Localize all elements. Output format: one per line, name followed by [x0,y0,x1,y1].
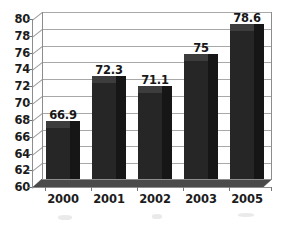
y-axis-tick-label: 80 [2,14,30,25]
y-axis-tick-label: 68 [2,115,30,126]
y-axis-tick-label: 76 [2,48,30,59]
x-axis-line-back [42,179,272,180]
bar-chart: 80 78 76 74 72 70 68 66 64 62 60 [0,0,282,227]
x-axis-category-label-2002: 2002 [132,192,178,206]
x-axis-tick-mark [183,187,184,191]
scan-artifact [58,215,72,220]
y-axis-line-back [42,12,43,179]
x-axis-tick-mark [45,187,46,191]
y-axis-tick-label: 70 [2,98,30,109]
bar-side-face [208,54,218,179]
bar-value-label-2003: 75 [178,41,224,55]
x-axis-tick-mark [229,187,230,191]
y-axis-tick-label: 72 [2,81,30,92]
scan-artifact [238,213,254,217]
bar-2002[interactable] [138,86,172,179]
y-axis-tick-label: 74 [2,64,30,75]
bar-2005[interactable] [230,24,264,179]
bar-side-face [254,24,264,179]
y-axis-tick-label: 66 [2,132,30,143]
plot-right-border [271,12,272,179]
x-axis-tick-mark [137,187,138,191]
y-axis-line-front [32,20,33,187]
x-axis-category-label-2001: 2001 [86,192,132,206]
x-axis-category-label-2003: 2003 [178,192,224,206]
x-axis-tick-mark [91,187,92,191]
y-axis-tick-label: 62 [2,165,30,176]
bar-2001[interactable] [92,76,126,179]
x-axis-line-front [32,187,272,188]
y-axis: 80 78 76 74 72 70 68 66 64 62 60 [0,0,30,227]
bar-value-label-2000: 66.9 [40,108,86,122]
bar-value-label-2005: 78.6 [224,11,270,25]
x-axis-category-label-2005: 2005 [224,192,270,206]
bar-side-face [162,86,172,179]
x-axis-category-label-2000: 2000 [40,192,86,206]
bar-value-label-2002: 71.1 [132,73,178,87]
x-axis-tick-mark [271,187,272,191]
bar-2003[interactable] [184,54,218,179]
bar-value-label-2001: 72.3 [86,63,132,77]
bar-2000[interactable] [46,121,80,179]
y-axis-tick-label: 78 [2,31,30,42]
y-axis-tick-label: 60 [2,182,30,193]
bar-side-face [116,76,126,179]
y-axis-tick-label: 64 [2,149,30,160]
bar-side-face [70,121,80,179]
scan-artifact [152,214,162,219]
